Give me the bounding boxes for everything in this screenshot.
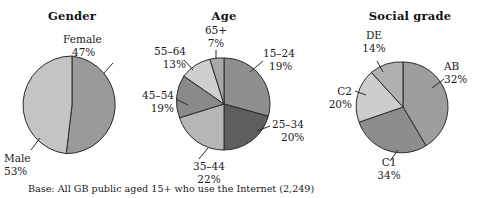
social-grade-label-c1-name: C1 bbox=[364, 156, 414, 169]
chart-footnote: Base: All GB public aged 15+ who use the… bbox=[28, 183, 314, 194]
pie-chart-figure: Gender Female 47% Male 53% Age 15–24 1 bbox=[0, 0, 486, 198]
social-grade-label-de-name: DE bbox=[353, 29, 395, 42]
social-grade-label-c1: C1 34% bbox=[364, 156, 414, 181]
social-grade-label-de: DE 14% bbox=[353, 29, 395, 54]
social-grade-label-c2-pct: 20% bbox=[316, 98, 352, 111]
social-grade-label-de-pct: 14% bbox=[353, 42, 395, 55]
social-grade-label-ab-pct: 32% bbox=[444, 73, 467, 86]
social-grade-label-ab-name: AB bbox=[444, 60, 467, 73]
social-grade-label-c2-name: C2 bbox=[316, 85, 352, 98]
social-grade-label-c1-pct: 34% bbox=[364, 169, 414, 182]
social-grade-label-ab: AB 32% bbox=[444, 60, 467, 85]
social-grade-label-c2: C2 20% bbox=[316, 85, 352, 110]
